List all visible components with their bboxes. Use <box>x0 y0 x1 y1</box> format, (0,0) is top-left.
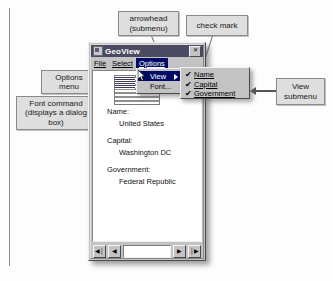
field-value-government: Federal Republic <box>119 177 201 187</box>
field-label-name: Name: <box>107 107 201 117</box>
menu-options-label: Options <box>139 59 165 68</box>
callout-font-command: Font command (displays a dialog box) <box>16 96 96 130</box>
callout-options-menu-text: Options menu <box>55 73 83 92</box>
flag-canton <box>115 76 135 89</box>
options-dropdown-menu[interactable]: View Font... <box>136 68 182 94</box>
callout-view-submenu: View submenu <box>276 78 325 105</box>
menu-item-font-label: Font... <box>150 82 171 91</box>
menu-select[interactable]: Select <box>109 58 136 69</box>
menu-item-font[interactable]: Font... <box>138 81 180 91</box>
callout-font-command-text: Font command (displays a dialog box) <box>25 99 87 128</box>
previous-record-icon[interactable]: ◀ <box>108 245 121 258</box>
callout-arrowhead: arrowhead (submenu) <box>118 11 179 36</box>
check-mark-icon-name: ✔ <box>185 70 192 80</box>
field-value-capital: Washington DC <box>119 148 201 158</box>
first-record-icon[interactable]: ◀│ <box>93 245 106 258</box>
close-icon[interactable]: ✕ <box>189 46 201 57</box>
callout-arrow-shaft <box>256 90 276 92</box>
menu-item-view[interactable]: View <box>138 71 180 81</box>
field-value-name: United States <box>119 119 201 129</box>
submenu-item-capital-label: Capital <box>194 80 217 89</box>
next-record-icon[interactable]: ▶ <box>173 245 186 258</box>
field-label-capital: Capital: <box>107 136 201 146</box>
title-bar[interactable]: GeoView ✕ <box>91 45 203 57</box>
submenu-arrowhead-icon <box>174 74 178 80</box>
submenu-item-government-label: Government <box>194 89 235 98</box>
callout-check-mark: check mark <box>186 15 248 36</box>
callout-arrow-head-icon <box>250 87 256 95</box>
callout-arrowhead-text: arrowhead (submenu) <box>129 14 167 33</box>
check-mark-icon-capital: ✔ <box>185 80 192 90</box>
callout-view-submenu-text: View submenu <box>284 82 317 101</box>
app-globe-icon <box>93 46 103 56</box>
last-record-icon[interactable]: │▶ <box>188 245 201 258</box>
menu-select-label: Select <box>112 59 133 68</box>
menu-item-view-label: View <box>150 72 166 81</box>
menu-file[interactable]: File <box>91 58 109 69</box>
record-navigator[interactable]: ◀│ ◀ ▶ │▶ <box>92 244 202 258</box>
callout-check-mark-text: check mark <box>197 21 238 31</box>
field-label-government: Government: <box>107 165 201 175</box>
submenu-item-name-label: Name <box>194 70 214 79</box>
submenu-item-capital[interactable]: ✔ Capital <box>182 80 248 90</box>
check-mark-icon-government: ✔ <box>185 89 192 99</box>
record-fields: Name: United States Capital: Washington … <box>93 107 201 194</box>
navigator-track[interactable] <box>123 245 171 258</box>
figure-canvas: arrowhead (submenu) check mark Options m… <box>0 0 333 281</box>
window-title: GeoView <box>105 47 189 56</box>
submenu-item-name[interactable]: ✔ Name <box>182 70 248 80</box>
menu-file-label: File <box>94 59 106 68</box>
submenu-item-government[interactable]: ✔ Government <box>182 89 248 99</box>
page-margin-rule <box>9 8 10 266</box>
view-submenu-menu[interactable]: ✔ Name ✔ Capital ✔ Government <box>180 67 250 99</box>
